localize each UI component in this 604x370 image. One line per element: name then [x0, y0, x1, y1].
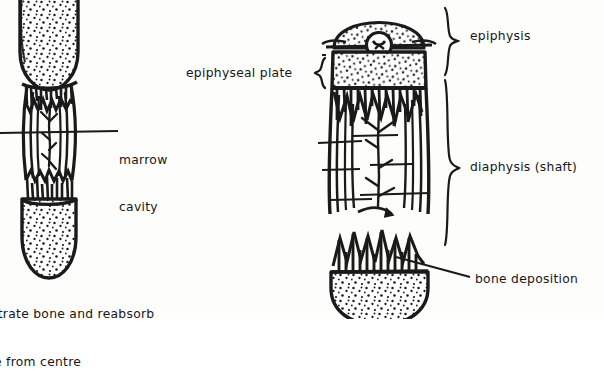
label-epiphyseal-plate: epiphyseal plate — [186, 66, 292, 81]
footnote-text: ltrate bone and reabsorb e from centre — [0, 277, 154, 370]
label-diaphysis-shaft: diaphysis (shaft) — [470, 160, 577, 175]
label-marrow-cavity-line2: cavity — [119, 200, 168, 215]
marrow-cavity-leader-line — [0, 131, 118, 133]
footnote-line-2: e from centre — [0, 355, 154, 370]
epiphysis-brace-path — [445, 8, 458, 75]
label-marrow-cavity: marrow cavity — [119, 123, 168, 245]
label-bone-deposition: bone deposition — [475, 272, 578, 287]
footnote-line-1: ltrate bone and reabsorb — [0, 307, 154, 322]
diaphysis-brace-path — [445, 80, 459, 245]
label-epiphysis: epiphysis — [470, 29, 531, 44]
epiphyseal-plate-brace-path — [315, 58, 325, 88]
left-bone-group — [0, 0, 118, 278]
label-marrow-cavity-line1: marrow — [119, 153, 168, 168]
